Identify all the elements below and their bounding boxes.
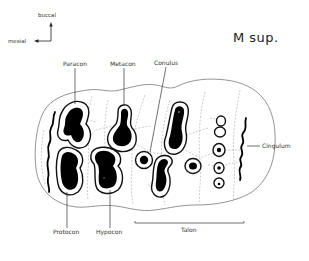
hypocon-label: Hypocon [96,228,123,236]
protocon-cusp [57,147,83,194]
hypocon-cusp [91,147,123,193]
conulus-label: Conulus [154,59,178,66]
lingual-cusp-3 [152,156,173,198]
pit-dot [103,177,105,179]
metacon-cusp [108,105,137,152]
diagram-title: M sup. [233,30,279,45]
cusplet-chain [213,116,226,188]
talon-cusp [185,159,201,174]
orientation-indicator: buccal mesial [8,12,56,44]
paracon-cusp [58,101,91,148]
conulus-cusp [136,152,153,169]
talon-label: Talon [180,226,197,233]
buccal-label: buccal [38,12,56,18]
cingulum-crest [239,118,246,180]
mesial-label: mesial [8,38,27,44]
buccal-arrow-icon [49,22,52,27]
mesial-crest [47,112,55,192]
mesial-arrow-icon [34,39,39,42]
cingulum-label: Cingulum [262,142,291,150]
paracon-label: Paracon [63,60,87,67]
metacon-label: Metacon [110,60,136,67]
pit-dot [178,111,180,113]
leader-lines [67,67,260,228]
buccal-cusp-3 [164,102,188,154]
molar-diagram: buccal mesial M sup. [0,0,309,261]
protocon-label: Protocon [53,228,80,235]
